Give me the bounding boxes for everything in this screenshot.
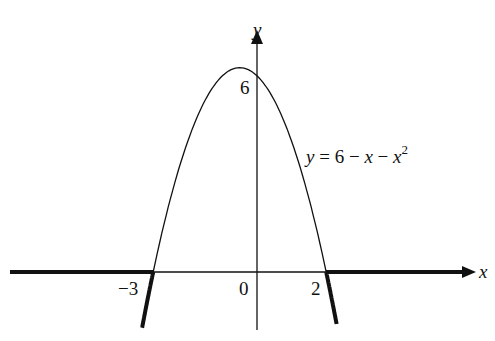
eq-exponent: 2 (401, 142, 408, 157)
x-axis-label: x (479, 262, 487, 281)
tick-label-6: 6 (240, 78, 250, 97)
parabola-curve (153, 68, 326, 272)
equation-label: y = 6 − x − x2 (306, 145, 408, 166)
x-axis-arrow-icon (462, 266, 476, 278)
parabola-bold-left (142, 272, 153, 328)
y-axis-label: y (253, 20, 261, 39)
eq-x1: x (364, 146, 372, 167)
parabola-bold-right (326, 272, 336, 324)
tick-label-2: 2 (311, 279, 321, 298)
tick-label-neg3: −3 (118, 279, 138, 298)
eq-mid: = 6 − (314, 146, 364, 167)
tick-label-0: 0 (239, 279, 249, 298)
eq-minus: − (373, 146, 393, 167)
